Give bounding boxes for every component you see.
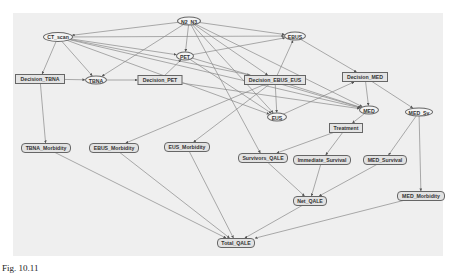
node-eus[interactable]: EUS bbox=[267, 113, 287, 122]
node-label: Immediate_Survival bbox=[298, 157, 347, 163]
node-label: Decision_EBUS_EUS bbox=[249, 77, 301, 83]
edge-N2_N3-to-CT_scan bbox=[72, 21, 189, 35]
node-med-survival[interactable]: MED_Survival bbox=[363, 155, 407, 165]
edge-TBNA_Morbidity-to-Total_QALE bbox=[46, 148, 226, 238]
node-pet[interactable]: PET bbox=[176, 52, 194, 61]
edge-CT_scan-to-Decision_TBNA bbox=[42, 37, 58, 74]
node-label: Decision_MED bbox=[347, 74, 383, 80]
edge-EUS_Morbidity-to-Total_QALE bbox=[187, 147, 233, 238]
node-label: Treatment bbox=[334, 125, 359, 131]
node-label: EUS bbox=[272, 114, 283, 120]
edge-EBUS_Morbidity-to-Total_QALE bbox=[114, 148, 230, 238]
node-ct-scan[interactable]: CT_scan bbox=[43, 32, 73, 42]
node-label: MED_Morbidity bbox=[402, 193, 440, 199]
node-label: PET bbox=[180, 53, 190, 59]
edge-MED_Sv-to-MED_Morbidity bbox=[419, 112, 421, 191]
edge-MED_Sv-to-MED_Survival bbox=[389, 112, 419, 155]
node-decision-ebus-eus[interactable]: Decision_EBUS_EUS bbox=[244, 75, 306, 85]
node-tbna[interactable]: TBNA bbox=[85, 76, 107, 85]
node-label: TBNA bbox=[89, 77, 103, 83]
edge-EBUS-to-Decision_MED bbox=[295, 36, 356, 72]
node-ebus[interactable]: EBUS bbox=[284, 32, 306, 41]
node-label: N2_N3 bbox=[181, 18, 197, 24]
edge-Decision_TBNA-to-TBNA_Morbidity bbox=[40, 79, 46, 143]
node-med-morbidity[interactable]: MED_Morbidity bbox=[397, 191, 445, 201]
node-label: Decision_PET bbox=[143, 77, 178, 83]
node-label: MED_Sv bbox=[409, 109, 430, 115]
edge-CT_scan-to-PET bbox=[58, 37, 176, 55]
node-net-qale[interactable]: Net_QALE bbox=[293, 196, 327, 206]
edge-Decision_EBUS_EUS-to-EBUS_Morbidity bbox=[126, 80, 275, 143]
node-med[interactable]: MED bbox=[359, 106, 379, 115]
edge-CT_scan-to-EBUS bbox=[58, 36, 284, 37]
node-total-qale[interactable]: Total_QALE bbox=[217, 238, 255, 248]
node-survivors-qale[interactable]: Survivors_QALE bbox=[238, 153, 288, 163]
node-label: CT_scan bbox=[47, 34, 69, 40]
node-ebus-morbidity[interactable]: EBUS_Morbidity bbox=[89, 143, 139, 153]
node-label: Total_QALE bbox=[221, 240, 250, 246]
node-label: Net_QALE bbox=[297, 198, 323, 204]
node-decision-tbna[interactable]: Decision_TBNA bbox=[15, 74, 65, 84]
node-label: Survivors_QALE bbox=[242, 155, 283, 161]
node-label: MED_Survival bbox=[368, 157, 403, 163]
node-label: TBNA_Morbidity bbox=[26, 145, 67, 151]
edge-Decision_EBUS_EUS-to-EUS_Morbidity bbox=[194, 80, 275, 142]
node-label: Decision_TBNA bbox=[21, 76, 60, 82]
node-label: EBUS bbox=[288, 33, 302, 39]
node-label: EUS_Morbidity bbox=[169, 144, 206, 150]
node-decision-pet[interactable]: Decision_PET bbox=[138, 75, 183, 85]
node-decision-med[interactable]: Decision_MED bbox=[342, 72, 388, 82]
edge-PET-to-EBUS bbox=[185, 38, 285, 56]
node-tbna-morbidity[interactable]: TBNA_Morbidity bbox=[21, 143, 71, 153]
node-label: EBUS_Morbidity bbox=[94, 145, 135, 151]
edge-Immediate_Survival-to-Net_QALE bbox=[311, 160, 322, 196]
node-label: MED bbox=[363, 107, 375, 113]
edge-MED_Survival-to-Net_QALE bbox=[319, 160, 385, 196]
figure-caption: Fig. 10.11 bbox=[2, 263, 38, 273]
edge-EUS-to-Decision_MED bbox=[277, 82, 354, 117]
edge-MED_Morbidity-to-Total_QALE bbox=[255, 196, 421, 238]
node-n2-n3[interactable]: N2_N3 bbox=[177, 17, 201, 26]
node-immediate-survival[interactable]: Immediate_Survival bbox=[293, 155, 351, 165]
node-eus-morbidity[interactable]: EUS_Morbidity bbox=[164, 142, 210, 152]
node-med-sv[interactable]: MED_Sv bbox=[405, 108, 433, 117]
node-treatment[interactable]: Treatment bbox=[329, 123, 363, 133]
